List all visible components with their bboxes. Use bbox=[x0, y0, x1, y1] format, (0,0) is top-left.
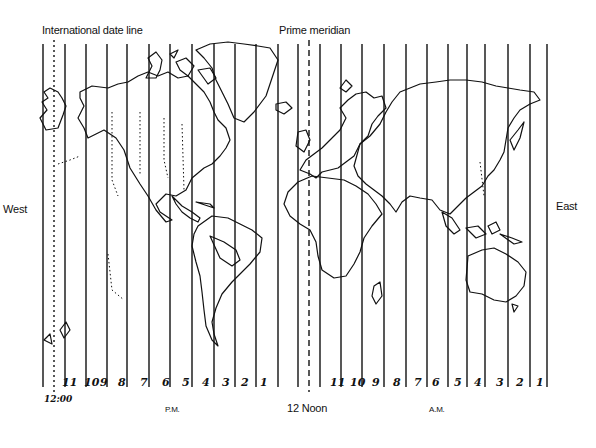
am-label: A.M. bbox=[429, 405, 445, 414]
hour-label: 6 bbox=[162, 376, 170, 389]
pm-label: P.M. bbox=[165, 405, 180, 414]
hour-label: 10 bbox=[350, 376, 365, 389]
hour-label: 5 bbox=[454, 376, 462, 389]
hour-label: 3 bbox=[496, 376, 504, 389]
pacific-islands bbox=[44, 322, 70, 344]
japan bbox=[510, 122, 524, 150]
hour-label: 7 bbox=[140, 376, 148, 389]
hour-label: 4 bbox=[474, 376, 482, 389]
hour-label: 5 bbox=[182, 376, 190, 389]
hour-label: 11 bbox=[62, 376, 77, 389]
international-date-line-label: International date line bbox=[42, 24, 143, 36]
hour-label: 3 bbox=[222, 376, 230, 389]
east-label: East bbox=[556, 200, 577, 212]
hour-label: 1 bbox=[536, 376, 544, 389]
hour-label: 7 bbox=[414, 376, 422, 389]
hour-label: 6 bbox=[432, 376, 440, 389]
africa bbox=[284, 176, 382, 304]
zone-boundary-dots bbox=[58, 112, 484, 300]
north-america bbox=[40, 72, 230, 222]
west-label: West bbox=[3, 203, 27, 215]
greenland bbox=[196, 42, 278, 122]
hour-label: 2 bbox=[516, 376, 524, 389]
hour-label: 4 bbox=[202, 376, 210, 389]
meridian-lines bbox=[43, 40, 547, 392]
hour-label: 9 bbox=[100, 376, 108, 389]
hour-label: 10 bbox=[84, 376, 99, 389]
noon-label: 12 Noon bbox=[287, 402, 327, 414]
hour-label: 8 bbox=[393, 376, 401, 389]
australia bbox=[466, 248, 526, 312]
hour-label: 8 bbox=[118, 376, 126, 389]
southeast-asia bbox=[442, 212, 522, 244]
midnight-label: 12:00 bbox=[44, 394, 72, 404]
hour-label: 9 bbox=[372, 376, 380, 389]
asia bbox=[354, 80, 540, 214]
canadian-arctic bbox=[146, 50, 216, 84]
hour-label: 1 bbox=[260, 376, 268, 389]
hour-label: 2 bbox=[241, 376, 249, 389]
prime-meridian-label: Prime meridian bbox=[279, 24, 350, 36]
continents bbox=[40, 42, 540, 346]
hour-label: 11 bbox=[330, 376, 345, 389]
south-america bbox=[192, 216, 262, 346]
central-america bbox=[172, 196, 214, 222]
